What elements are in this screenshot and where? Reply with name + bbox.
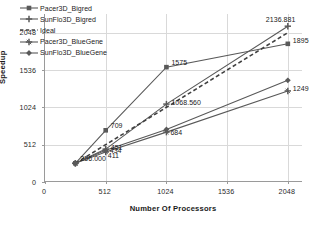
- data-point-marker-plus: [285, 23, 291, 29]
- data-point-marker-square: [286, 42, 291, 47]
- x-axis-tick-label: 0: [24, 187, 64, 196]
- data-point-marker-square: [27, 6, 32, 11]
- data-point-marker-cross: [285, 88, 291, 94]
- legend-item-label: SunFlo3D_Bigred: [40, 16, 96, 23]
- data-point-label: 1068.560: [171, 99, 201, 106]
- legend-item-label: Pacer3D_Bigred: [40, 5, 92, 12]
- legend-item-label: Pacer3D_BlueGene: [40, 38, 103, 45]
- legend-item[interactable]: SunFlo3D_Bigred: [19, 14, 107, 24]
- data-point-label: 684: [170, 129, 182, 136]
- legend-item[interactable]: Pacer3D_BlueGene: [19, 37, 107, 47]
- data-point-label: 1249: [293, 85, 309, 92]
- data-point-marker-cross: [26, 38, 32, 44]
- legend-key-diamond-icon: [19, 48, 39, 58]
- legend-item-label: SunFlo3D_BlueGene: [40, 49, 107, 56]
- legend-item[interactable]: SunFlo3D_BlueGene: [19, 48, 107, 58]
- data-point-label: 709: [111, 122, 123, 129]
- legend-key-plus-icon: [19, 14, 39, 24]
- legend-item[interactable]: Pacer3D_Bigred: [19, 3, 107, 13]
- data-point-label: 2136.881: [266, 16, 296, 23]
- series-line: [75, 26, 287, 163]
- legend-key-square-icon: [19, 3, 39, 13]
- legend-item[interactable]: Ideal: [19, 25, 107, 35]
- data-point-marker-diamond: [285, 77, 291, 83]
- chart-legend: Pacer3D_BigredSunFlo3D_BigredIdealPacer3…: [19, 3, 107, 58]
- x-axis-tick-label: 512: [85, 187, 125, 196]
- x-axis-title: Number Of Processors: [44, 204, 302, 213]
- legend-key-none-icon: [19, 25, 39, 35]
- data-point-marker-square: [164, 65, 169, 70]
- y-axis-tick-label: 1536: [2, 66, 36, 75]
- y-axis-tick-label: 1024: [2, 103, 36, 112]
- data-point-label: 256.000: [80, 155, 106, 162]
- x-axis-tick-label: 2048: [267, 187, 307, 196]
- y-axis-tick-label: 512: [2, 140, 36, 149]
- data-point-label: 411: [108, 152, 119, 159]
- y-axis-tick-label: 0: [2, 178, 36, 187]
- series-line: [75, 33, 287, 164]
- legend-key-cross-icon: [19, 37, 39, 47]
- data-point-marker-square: [103, 128, 108, 133]
- data-point-marker-plus: [26, 16, 32, 22]
- data-point-label: 1575: [171, 59, 187, 66]
- data-point-marker-diamond: [26, 50, 32, 56]
- x-axis-tick-label: 1536: [206, 187, 246, 196]
- data-point-label: 1895: [293, 37, 309, 44]
- legend-item-label: Ideal: [40, 27, 55, 34]
- speedup-line-chart: Speedup Number Of Processors 05121024153…: [0, 0, 322, 229]
- x-axis-tick-label: 1024: [145, 187, 185, 196]
